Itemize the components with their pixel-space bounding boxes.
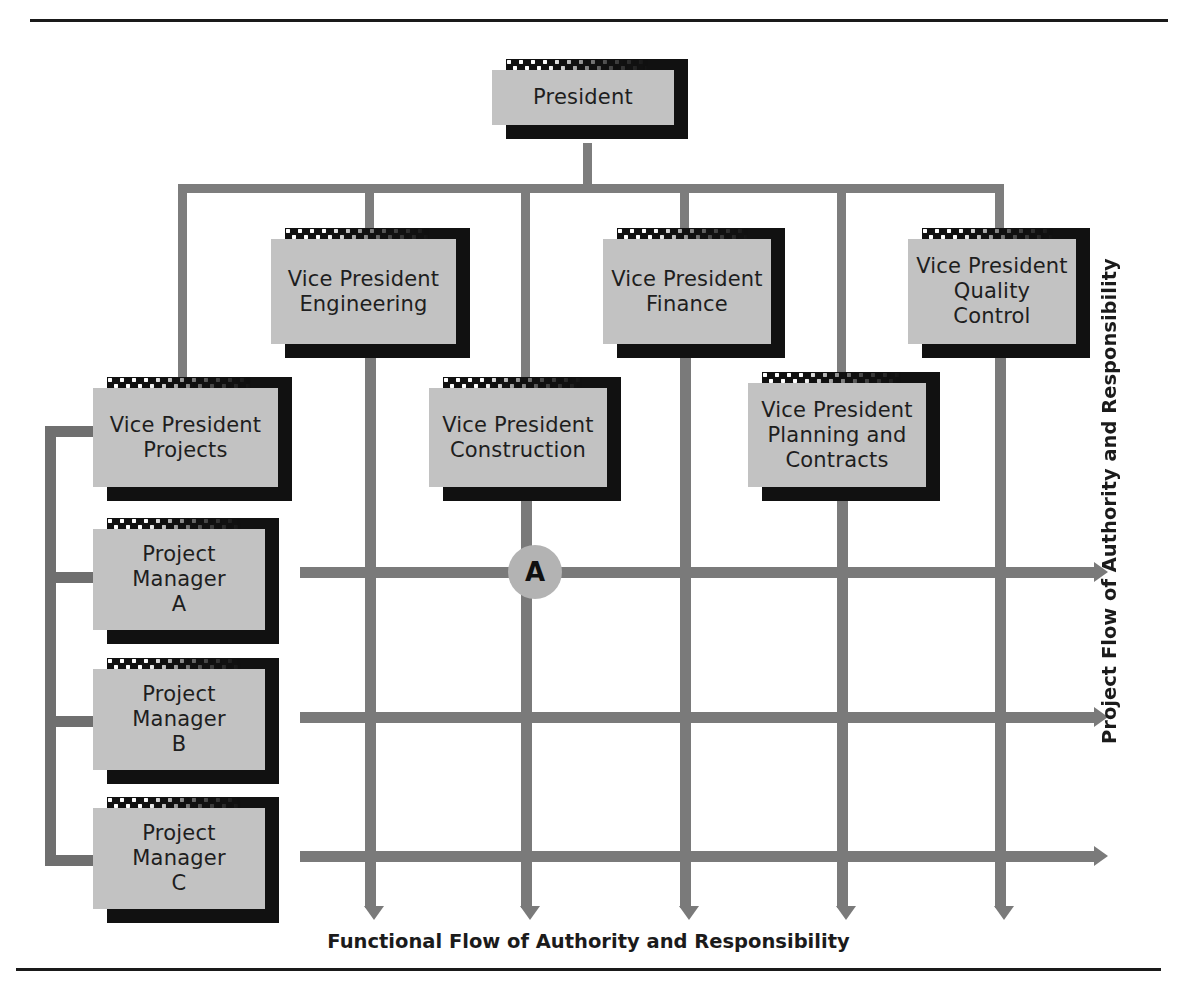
matrix-arrow-down-quality bbox=[994, 906, 1014, 920]
matrix-row-pm-c bbox=[300, 851, 1096, 862]
org-chart-diagram: A President Vice President Engineering V… bbox=[0, 0, 1177, 1002]
matrix-column-quality bbox=[995, 348, 1006, 908]
node-president[interactable]: President bbox=[492, 59, 674, 125]
node-vp-finance[interactable]: Vice President Finance bbox=[603, 228, 771, 344]
matrix-junction-label: A bbox=[525, 557, 545, 587]
node-label-vp-projects: Vice President Projects bbox=[104, 413, 268, 463]
node-face: Vice President Planning and Contracts bbox=[748, 383, 926, 487]
node-vp-construction[interactable]: Vice President Construction bbox=[429, 377, 607, 487]
node-label-project-manager-b: Project Manager B bbox=[126, 682, 231, 757]
matrix-row-pm-b bbox=[300, 712, 1096, 723]
node-label-vp-construction: Vice President Construction bbox=[436, 413, 600, 463]
bracket-spine-projects bbox=[45, 426, 56, 866]
node-face: Project Manager B bbox=[93, 669, 265, 770]
connector-drop-vp-engineering bbox=[365, 184, 374, 229]
connector-main-bus bbox=[178, 184, 1004, 193]
node-face: Project Manager A bbox=[93, 529, 265, 630]
node-face: Vice President Construction bbox=[429, 388, 607, 487]
matrix-column-engineering bbox=[365, 348, 376, 908]
node-vp-engineering[interactable]: Vice President Engineering bbox=[271, 228, 456, 344]
node-label-project-manager-a: Project Manager A bbox=[126, 542, 231, 617]
connector-drop-vp-finance bbox=[680, 184, 689, 229]
node-face: President bbox=[492, 70, 674, 125]
node-project-manager-c[interactable]: Project Manager C bbox=[93, 797, 265, 909]
matrix-arrow-down-finance bbox=[679, 906, 699, 920]
matrix-row-pm-a-right bbox=[556, 567, 1096, 578]
node-face: Project Manager C bbox=[93, 808, 265, 909]
matrix-row-pm-a-left bbox=[300, 567, 512, 578]
connector-drop-vp-quality bbox=[995, 184, 1004, 229]
bottom-divider-rule bbox=[16, 968, 1161, 971]
connector-president-stem bbox=[583, 143, 592, 188]
matrix-arrow-down-construction bbox=[520, 906, 540, 920]
matrix-column-finance bbox=[680, 348, 691, 908]
node-project-manager-a[interactable]: Project Manager A bbox=[93, 518, 265, 630]
caption-functional-axis: Functional Flow of Authority and Respons… bbox=[0, 930, 1177, 953]
top-divider-rule bbox=[30, 19, 1168, 22]
node-face: Vice President Engineering bbox=[271, 239, 456, 344]
matrix-junction-marker-a: A bbox=[508, 545, 562, 599]
node-label-vp-quality-control: Vice President Quality Control bbox=[910, 254, 1074, 329]
node-label-president: President bbox=[527, 85, 639, 110]
node-face: Vice President Projects bbox=[93, 388, 278, 487]
connector-drop-vp-planning bbox=[837, 184, 846, 384]
node-face: Vice President Finance bbox=[603, 239, 771, 344]
node-project-manager-b[interactable]: Project Manager B bbox=[93, 658, 265, 770]
node-label-vp-engineering: Vice President Engineering bbox=[282, 267, 446, 317]
caption-project-axis: Project Flow of Authority and Responsibi… bbox=[1094, 0, 1124, 1002]
connector-drop-vp-construction bbox=[521, 184, 530, 384]
node-vp-quality-control[interactable]: Vice President Quality Control bbox=[908, 228, 1076, 344]
node-face: Vice President Quality Control bbox=[908, 239, 1076, 344]
matrix-arrow-down-planning bbox=[836, 906, 856, 920]
node-label-vp-planning-contracts: Vice President Planning and Contracts bbox=[755, 398, 919, 473]
matrix-column-planning bbox=[837, 487, 848, 908]
node-label-project-manager-c: Project Manager C bbox=[126, 821, 231, 896]
node-vp-planning-contracts[interactable]: Vice President Planning and Contracts bbox=[748, 372, 926, 487]
node-label-vp-finance: Vice President Finance bbox=[605, 267, 769, 317]
node-vp-projects[interactable]: Vice President Projects bbox=[93, 377, 278, 487]
matrix-arrow-down-engineering bbox=[364, 906, 384, 920]
